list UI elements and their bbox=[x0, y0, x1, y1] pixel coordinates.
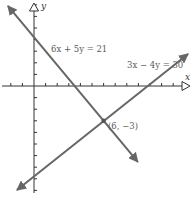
y-axis: y bbox=[30, 1, 48, 193]
axis-ticks bbox=[11, 5, 173, 191]
x-axis-arrow-icon bbox=[182, 82, 190, 91]
y-axis-label: y bbox=[40, 1, 47, 11]
plot-area: x y 6x + 5y = 21 3x − 4y = 30 (6, −3) bbox=[0, 0, 192, 203]
x-axis-label: x bbox=[185, 72, 190, 82]
intersection-point bbox=[101, 119, 105, 123]
intersection-label: (6, −3) bbox=[108, 121, 138, 131]
series-line-1 bbox=[8, 6, 138, 162]
y-axis-arrow-icon bbox=[30, 3, 39, 11]
equation-label-2: 3x − 4y = 30 bbox=[127, 60, 183, 70]
equation-label-1: 6x + 5y = 21 bbox=[51, 44, 107, 54]
line-graph-figure: x y 6x + 5y = 21 3x − 4y = 30 (6, −3) bbox=[0, 0, 192, 203]
